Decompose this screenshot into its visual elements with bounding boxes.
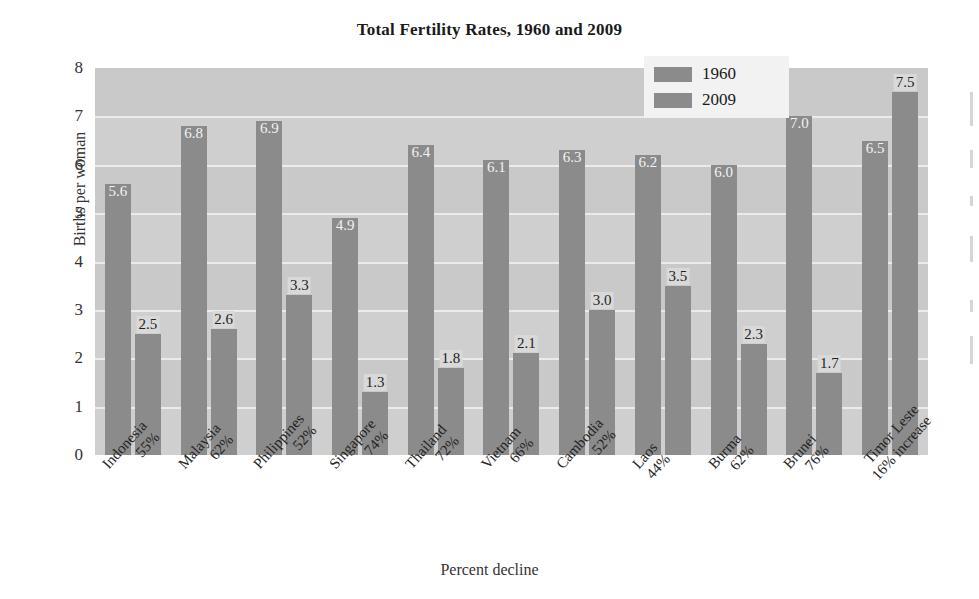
bar-value-label: 4.9 [334, 217, 357, 234]
bar-value-label: 6.1 [485, 159, 508, 176]
y-tick-label: 6 [23, 156, 83, 173]
legend: 1960 2009 [644, 56, 789, 118]
bar-value-label: 6.0 [712, 164, 735, 181]
page-title: Total Fertility Rates, 1960 and 2009 [0, 20, 979, 40]
bar-value-label: 7.5 [894, 74, 917, 91]
y-tick-label: 8 [23, 59, 83, 76]
bar-2009-laos: 3.5 [665, 286, 691, 455]
bar-group: 6.23.5 [625, 68, 701, 455]
scan-artifact [970, 150, 973, 168]
scan-artifact [970, 300, 973, 312]
legend-swatch-2009 [654, 93, 692, 108]
bar-value-label: 6.4 [409, 144, 432, 161]
y-tick-label: 3 [23, 301, 83, 318]
bar-group: 6.33.0 [549, 68, 625, 455]
bar-group: 5.62.5 [95, 68, 171, 455]
bar-1960-cambodia: 6.3 [559, 150, 585, 455]
y-tick-label: 7 [23, 107, 83, 124]
bar-1960-thailand: 6.4 [408, 145, 434, 455]
bar-value-label: 1.3 [364, 374, 387, 391]
bar-value-label: 6.8 [182, 125, 205, 142]
bar-2009-burma: 2.3 [741, 344, 767, 455]
bar-value-label: 2.5 [136, 316, 159, 333]
bar-group: 6.82.6 [171, 68, 247, 455]
bar-value-label: 3.0 [591, 292, 614, 309]
legend-item-1960: 1960 [654, 61, 779, 87]
bar-value-label: 6.3 [561, 149, 584, 166]
bar-group: 6.57.5 [852, 68, 928, 455]
bar-1960-philippines: 6.9 [256, 121, 282, 455]
bar-value-label: 5.6 [106, 183, 129, 200]
bar-1960-singapore: 4.9 [332, 218, 358, 455]
bar-value-label: 2.1 [515, 335, 538, 352]
bar-value-label: 2.3 [742, 326, 765, 343]
bar-group: 6.41.8 [398, 68, 474, 455]
bar-1960-timor-leste: 6.5 [862, 141, 888, 455]
scan-artifact [970, 92, 973, 126]
scan-page-edge [961, 0, 979, 599]
plot-area: 5.62.56.82.66.93.34.91.36.41.86.12.16.33… [95, 68, 928, 455]
bar-1960-burma: 6.0 [711, 165, 737, 455]
bar-value-label: 3.3 [288, 277, 311, 294]
bar-value-label: 2.6 [212, 311, 235, 328]
bar-1960-malaysia: 6.8 [181, 126, 207, 455]
chart-root: Total Fertility Rates, 1960 and 2009 Bir… [0, 0, 979, 599]
y-tick-label: 1 [23, 398, 83, 415]
bar-value-label: 7.0 [788, 115, 811, 132]
legend-item-2009: 2009 [654, 87, 779, 113]
bar-1960-indonesia: 5.6 [105, 184, 131, 455]
bar-1960-brunei: 7.0 [786, 116, 812, 455]
bar-group: 6.93.3 [246, 68, 322, 455]
legend-label-2009: 2009 [702, 90, 736, 110]
legend-swatch-1960 [654, 67, 692, 82]
legend-label-1960: 1960 [702, 64, 736, 84]
bar-group: 6.02.3 [701, 68, 777, 455]
x-axis-ticks: Indonesia55%Malaysia62%Philippines52%Sin… [0, 455, 979, 565]
bar-series-container: 5.62.56.82.66.93.34.91.36.41.86.12.16.33… [95, 68, 928, 455]
bar-1960-vietnam: 6.1 [483, 160, 509, 455]
bar-value-label: 6.5 [864, 140, 887, 157]
bar-group: 4.91.3 [322, 68, 398, 455]
scan-artifact [970, 196, 973, 206]
bar-value-label: 6.9 [258, 120, 281, 137]
scan-artifact [970, 236, 973, 262]
y-tick-label: 4 [23, 253, 83, 270]
bar-value-label: 1.8 [439, 350, 462, 367]
bar-group: 7.01.7 [777, 68, 853, 455]
y-axis-title: Births per woman [71, 69, 89, 309]
bar-group: 6.12.1 [474, 68, 550, 455]
bar-2009-timor-leste: 7.5 [892, 92, 918, 455]
bar-value-label: 6.2 [637, 154, 660, 171]
bar-value-label: 1.7 [818, 355, 841, 372]
y-tick-label: 2 [23, 349, 83, 366]
y-tick-label: 5 [23, 204, 83, 221]
bar-1960-laos: 6.2 [635, 155, 661, 455]
scan-artifact [970, 336, 973, 364]
bar-value-label: 3.5 [667, 268, 690, 285]
